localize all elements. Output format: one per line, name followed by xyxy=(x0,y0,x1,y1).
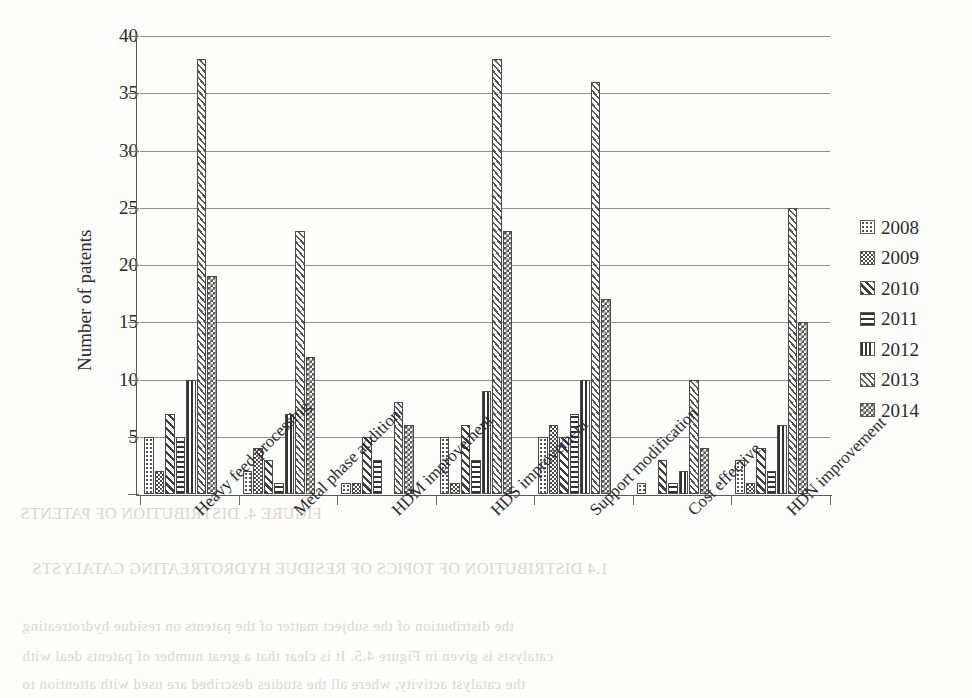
bar-2014-7 xyxy=(798,322,808,494)
bar-group xyxy=(144,59,217,494)
y-axis-title: Number of patents xyxy=(48,0,70,175)
bar-2014-2 xyxy=(306,357,316,494)
y-tick-mark xyxy=(128,93,139,94)
legend-label-2009: 2009 xyxy=(881,248,919,267)
bar-2009-7 xyxy=(746,483,756,494)
legend-label-2013: 2013 xyxy=(881,370,919,389)
y-tick-mark xyxy=(128,494,139,495)
bar-2012-7 xyxy=(777,425,787,494)
legend-label-2011: 2011 xyxy=(881,309,918,328)
y-tick-mark xyxy=(128,265,139,266)
legend-swatch-icon-2010 xyxy=(860,281,875,295)
bar-2011-6 xyxy=(668,483,678,494)
legend-swatch-icon-2012 xyxy=(860,342,875,356)
bar-2014-4 xyxy=(503,231,513,494)
bar-2013-5 xyxy=(591,82,601,494)
bar-2010-6 xyxy=(658,460,668,494)
bar-2008-1 xyxy=(144,437,154,494)
y-tick-mark xyxy=(128,208,139,209)
bar-2013-6 xyxy=(689,380,699,495)
bar-2009-4 xyxy=(450,483,460,494)
x-axis-line xyxy=(136,495,832,496)
x-axis-category-labels: Heavy feed processingMetal phase additio… xyxy=(140,500,840,690)
legend-entry-2014: 2014 xyxy=(860,395,966,426)
bar-2014-5 xyxy=(601,299,611,494)
bar-chart-figure: Number of patents 510152025303540 Heavy … xyxy=(0,0,972,698)
legend-label-2010: 2010 xyxy=(881,279,919,298)
bar-2012-1 xyxy=(186,380,196,495)
bar-2013-4 xyxy=(492,59,502,494)
legend-swatch-icon-2013 xyxy=(860,373,875,387)
chart-legend: 2008200920102011201220132014 xyxy=(860,212,966,426)
legend-swatch-icon-2011 xyxy=(860,312,875,326)
y-tick-mark xyxy=(128,36,139,37)
legend-swatch-icon-2008 xyxy=(860,220,875,234)
legend-label-2014: 2014 xyxy=(881,401,919,420)
legend-swatch-icon-2014 xyxy=(860,403,875,417)
bar-2008-3 xyxy=(341,483,351,494)
legend-entry-2013: 2013 xyxy=(860,365,966,396)
legend-entry-2010: 2010 xyxy=(860,273,966,304)
bar-2011-1 xyxy=(176,437,186,494)
y-tick-mark xyxy=(128,322,139,323)
bar-2013-2 xyxy=(295,231,305,494)
bar-2011-4 xyxy=(471,460,481,494)
legend-entry-2008: 2008 xyxy=(860,212,966,243)
bar-2009-3 xyxy=(352,483,362,494)
legend-entry-2009: 2009 xyxy=(860,243,966,274)
y-tick-mark xyxy=(128,380,139,381)
bar-2012-6 xyxy=(679,471,689,494)
bar-2011-7 xyxy=(767,471,777,494)
y-axis-tick-labels: 510152025303540 xyxy=(92,0,138,698)
legend-swatch-icon-2009 xyxy=(860,251,875,265)
y-tick-mark xyxy=(128,151,139,152)
bar-2011-2 xyxy=(274,483,284,494)
bar-2010-1 xyxy=(165,414,175,494)
bar-2009-1 xyxy=(155,471,165,494)
legend-label-2012: 2012 xyxy=(881,340,919,359)
bar-2011-3 xyxy=(373,460,383,494)
legend-label-2008: 2008 xyxy=(881,218,919,237)
legend-entry-2012: 2012 xyxy=(860,334,966,365)
gridline xyxy=(140,36,830,37)
bar-2014-1 xyxy=(207,276,217,494)
bar-2008-6 xyxy=(637,483,647,494)
bar-2013-7 xyxy=(788,208,798,494)
bar-2012-4 xyxy=(482,391,492,494)
legend-entry-2011: 2011 xyxy=(860,304,966,335)
bar-2010-2 xyxy=(264,460,274,494)
bar-2013-1 xyxy=(197,59,207,494)
y-tick-mark xyxy=(128,437,139,438)
